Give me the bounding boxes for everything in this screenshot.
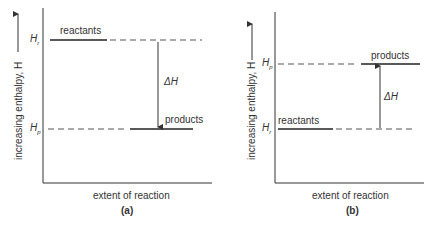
y-axis-label-a: increasing enthalpy, H <box>13 62 24 160</box>
x-axis-label-a: extent of reaction <box>93 190 170 201</box>
h-top-label-a: Hr <box>30 33 39 46</box>
y-axis-label-b: increasing enthalpy, H <box>246 62 257 160</box>
caption-b: (b) <box>346 205 359 216</box>
h-top-label-b: Hp <box>262 57 273 70</box>
products-label-b: products <box>371 50 409 61</box>
products-label-a: products <box>165 114 203 125</box>
h-bottom-label-a: Hp <box>30 122 41 135</box>
h-bottom-label-b: Hr <box>262 122 271 135</box>
x-axis-label-b: extent of reaction <box>312 190 389 201</box>
delta-h-label-b: ΔH <box>384 91 398 102</box>
reactants-label-b: reactants <box>278 115 319 126</box>
panel-b <box>252 12 424 183</box>
reactants-label-a: reactants <box>60 25 101 36</box>
panel-a <box>18 8 212 183</box>
caption-a: (a) <box>121 205 133 216</box>
delta-h-label-a: ΔH <box>164 76 178 87</box>
